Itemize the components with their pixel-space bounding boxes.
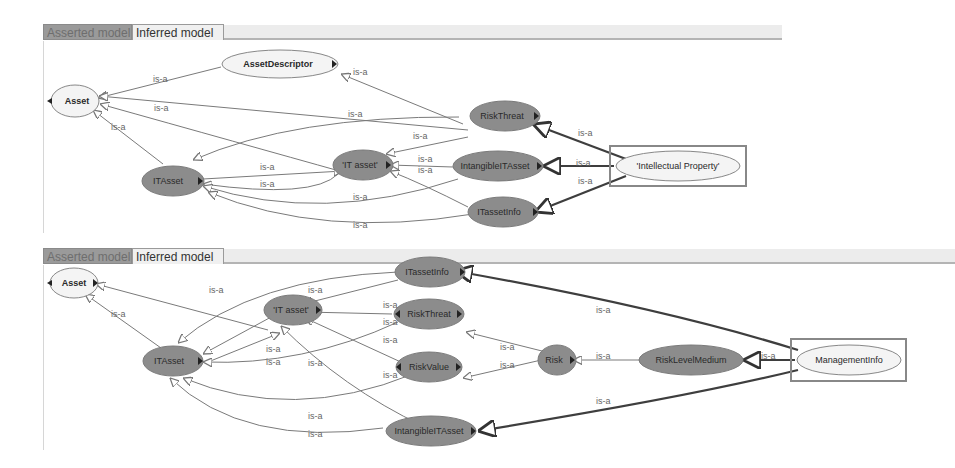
node-it-asset-quoted[interactable]: 'IT asset' xyxy=(264,295,322,325)
edge-label: is-a xyxy=(578,176,593,186)
svg-text:'IT asset': 'IT asset' xyxy=(342,160,378,170)
svg-text:IntangibleITAsset: IntangibleITAsset xyxy=(461,161,530,171)
edges xyxy=(93,67,473,223)
edge-label: is-a xyxy=(154,103,169,113)
node-intangibleitasset[interactable]: IntangibleITAsset xyxy=(453,151,543,181)
svg-text:RiskValue: RiskValue xyxy=(409,362,449,372)
svg-text:ManagementInfo: ManagementInfo xyxy=(815,355,883,365)
edge-label: is-a xyxy=(308,411,323,421)
edge-label: is-a xyxy=(383,370,398,380)
node-assetdescriptor[interactable]: AssetDescriptor xyxy=(222,50,338,78)
node-managementinfo[interactable]: ManagementInfo xyxy=(791,339,906,381)
node-risklevelmedium[interactable]: RiskLevelMedium xyxy=(639,345,743,375)
edge-label: is-a xyxy=(153,74,168,84)
svg-text:AssetDescriptor: AssetDescriptor xyxy=(243,59,313,69)
svg-text:RiskThreat: RiskThreat xyxy=(480,111,524,121)
edge-label: is-a xyxy=(596,396,611,406)
node-itassetinfo[interactable]: ITassetInfo xyxy=(395,257,465,287)
edge-label: is-a xyxy=(418,154,433,164)
edge-label: is-a xyxy=(260,162,275,172)
svg-text:ITAsset: ITAsset xyxy=(153,176,183,186)
expand-left-icon[interactable] xyxy=(47,98,52,104)
svg-text:Asset: Asset xyxy=(65,96,90,106)
expand-left-icon[interactable] xyxy=(47,280,52,286)
node-asset[interactable]: Asset xyxy=(47,85,99,117)
edge-label: is-a xyxy=(418,165,433,175)
ontology-graph-panel-bottom: Asserted model Inferred model xyxy=(43,248,955,448)
svg-text:Asset: Asset xyxy=(62,278,87,288)
svg-text:ITassetInfo: ITassetInfo xyxy=(405,267,449,277)
node-itassetinfo[interactable]: ITassetInfo xyxy=(468,197,538,227)
node-intangibleitasset[interactable]: IntangibleITAsset xyxy=(386,416,476,446)
edge-label: is-a xyxy=(353,220,368,230)
node-intellectual-property[interactable]: 'Intellectual Property' xyxy=(610,146,746,186)
edge-label: is-a xyxy=(578,128,593,138)
edge-label: is-a xyxy=(308,429,323,439)
edge-label: is-a xyxy=(348,109,363,119)
node-itasset[interactable]: ITAsset xyxy=(142,166,204,196)
edge-label: is-a xyxy=(383,300,398,310)
edge-label: is-a xyxy=(266,357,281,367)
graph-canvas[interactable]: is-a is-a is-a is-a is-a is-a is-a is-a … xyxy=(43,248,955,448)
edge-label: is-a xyxy=(111,309,126,319)
edge-label: is-a xyxy=(353,192,368,202)
edge-label: is-a xyxy=(111,122,126,132)
svg-text:'Intellectual Property': 'Intellectual Property' xyxy=(637,161,720,171)
edge-label: is-a xyxy=(308,285,323,295)
svg-text:RiskLevelMedium: RiskLevelMedium xyxy=(655,355,726,365)
edge-label: is-a xyxy=(266,344,281,354)
edge-label: is-a xyxy=(383,335,398,345)
edge-label: is-a xyxy=(761,351,776,361)
node-riskvalue[interactable]: RiskValue xyxy=(396,352,462,382)
edge-label: is-a xyxy=(576,158,591,168)
edge-label: is-a xyxy=(308,358,323,368)
edge-label: is-a xyxy=(500,342,515,352)
node-riskthreat[interactable]: RiskThreat xyxy=(394,299,464,329)
edge-label: is-a xyxy=(500,360,515,370)
svg-text:RiskThreat: RiskThreat xyxy=(407,309,451,319)
edge-label: is-a xyxy=(596,351,611,361)
node-riskthreat[interactable]: RiskThreat xyxy=(470,101,540,131)
svg-text:ITAsset: ITAsset xyxy=(154,356,184,366)
edge-label: is-a xyxy=(209,285,224,295)
ontology-graph-panel-top: Asserted model Inferred model xyxy=(43,24,955,234)
node-risk[interactable]: Risk xyxy=(538,345,576,375)
node-itasset[interactable]: ITAsset xyxy=(143,346,203,376)
edge-label: is-a xyxy=(413,131,428,141)
node-it-asset-quoted[interactable]: 'IT asset' xyxy=(333,150,393,180)
svg-text:Risk: Risk xyxy=(545,355,563,365)
svg-text:ITassetInfo: ITassetInfo xyxy=(477,207,521,217)
graph-canvas[interactable]: is-a is-a is-a is-a is-a is-a is-a is-a … xyxy=(43,24,955,234)
edge-label: is-a xyxy=(260,179,275,189)
svg-text:IntangibleITAsset: IntangibleITAsset xyxy=(395,426,464,436)
edge-label: is-a xyxy=(353,67,368,77)
node-asset[interactable]: Asset xyxy=(47,268,98,298)
svg-text:'IT asset': 'IT asset' xyxy=(273,305,309,315)
edge-label: is-a xyxy=(596,305,611,315)
